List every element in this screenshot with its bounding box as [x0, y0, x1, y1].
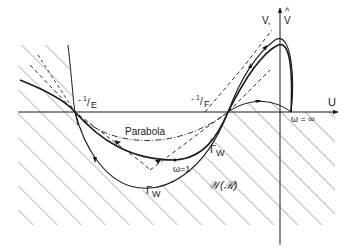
- minus-inverse-f-label: - 1 / F: [191, 94, 210, 109]
- direction-arrow-icon: [248, 63, 252, 68]
- omega-one-point: [173, 158, 176, 161]
- svg-text:W: W: [216, 148, 225, 158]
- omega-one-label: ω=1: [173, 164, 190, 174]
- u-axis-label: U: [328, 96, 336, 108]
- direction-arrow-icon: [262, 45, 267, 50]
- svg-text:/: /: [87, 97, 90, 108]
- region-w-r-label: 𝒲(ℛ): [208, 179, 238, 191]
- svg-text:F: F: [204, 99, 210, 109]
- hatched-region: [0, 0, 353, 248]
- svg-text:W: W: [152, 189, 161, 199]
- svg-text:/: /: [200, 96, 203, 107]
- direction-arrow-icon: [115, 140, 121, 145]
- omega-infinity-label: ω = ∞: [291, 114, 315, 124]
- v-hat-axis-label: V: [284, 15, 291, 26]
- minus-inverse-e-label: - 1 / E: [78, 95, 97, 110]
- popov-diagram: U V, ^ V - 1 / E - 1 / F Parabola ω=1 ω …: [0, 0, 353, 248]
- dashed-line-top: [205, 30, 272, 112]
- svg-text:-: -: [78, 95, 81, 105]
- svg-text:E: E: [91, 100, 97, 110]
- direction-arrow-icon: [155, 160, 161, 164]
- parabola-label: Parabola: [125, 126, 165, 137]
- v-axis-label: V,: [262, 15, 271, 26]
- svg-text:-: -: [191, 94, 194, 104]
